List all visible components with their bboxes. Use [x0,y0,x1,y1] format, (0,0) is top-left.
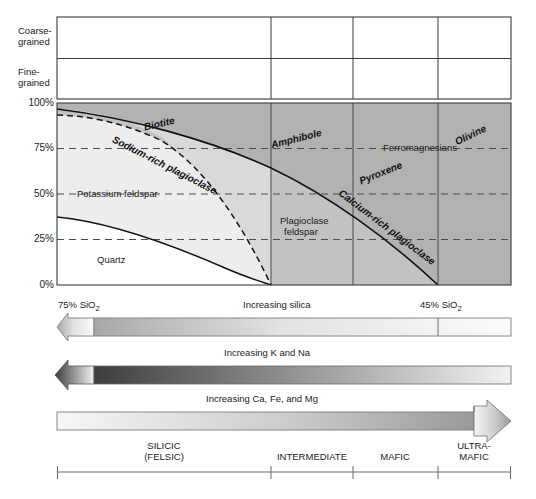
igneous-rock-classification-diagram: Coarse- grained Fine- grained GRANITE DI… [0,0,536,499]
ca-fe-mg-arrow-caption: Increasing Ca, Fe, and Mg [206,393,318,404]
ultramafic-line2: MAFIC [434,451,514,462]
silica-caption-text: Increasing silica [243,299,311,310]
silica-arrow-right-label: 45% SiO2 [420,299,462,313]
mafic-line1: MAFIC [355,451,435,462]
mineral-label-plagioclase-feldspar-line1: Plagioclase [280,215,329,226]
ultramafic-line1: ULTRA- [434,440,514,451]
composition-scale-axis [57,466,511,479]
ca-fe-mg-caption-text: Increasing Ca, Fe, and Mg [206,393,318,404]
silica-arrow-left-label: 75% SiO2 [58,299,100,313]
silicic-line2: (FELSIC) [104,451,224,462]
diagram-canvas: Biotite Sodium-rich plagioclase Amphibol… [0,0,536,499]
ca-fe-mg-arrow [57,400,511,442]
mineral-label-potassium-feldspar: Potassium feldspar [77,188,158,199]
composition-label-silicic: SILICIC (FELSIC) [104,440,224,462]
silica-right-subscript: 2 [458,304,462,313]
mineral-label-quartz: Quartz [97,254,126,265]
silica-right-value: 45% SiO [420,299,458,310]
silica-left-value: 75% SiO [58,299,96,310]
composition-label-mafic: MAFIC [355,451,435,462]
silica-arrow-caption: Increasing silica [243,299,311,310]
k-na-arrow-caption: Increasing K and Na [224,347,310,358]
k-na-caption-text: Increasing K and Na [224,347,310,358]
mineral-label-ferromagnesians: Ferromagnesians [383,142,457,153]
k-na-arrow [55,360,511,390]
composition-label-intermediate: INTERMEDIATE [252,451,372,462]
silicic-line1: SILICIC [104,440,224,451]
silica-arrow [57,313,511,341]
composition-label-ultramafic: ULTRA- MAFIC [434,440,514,462]
rock-name-table-frame [57,17,511,99]
silica-left-subscript: 2 [96,304,100,313]
intermediate-line1: INTERMEDIATE [252,451,372,462]
mineral-label-plagioclase-feldspar-line2: feldspar [284,226,318,237]
